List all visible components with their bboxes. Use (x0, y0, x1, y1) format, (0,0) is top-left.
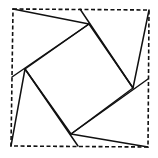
pinwheel-diagram (0, 0, 158, 158)
bottom-left-triangle (11, 69, 78, 146)
inner-square (25, 24, 133, 134)
top-left-triangle (12, 9, 89, 77)
bottom-right-triangle (71, 79, 148, 147)
top-right-triangle (80, 9, 149, 88)
